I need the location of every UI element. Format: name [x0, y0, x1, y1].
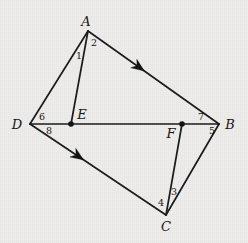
vertex-label-a: A — [81, 15, 90, 28]
vertex-label-e: E — [77, 108, 87, 121]
angle-7-label: 7 — [198, 112, 204, 122]
vertex-dot-f — [179, 121, 185, 127]
angle-6-label: 6 — [39, 112, 45, 122]
figure-canvas — [0, 0, 248, 243]
edge-ab — [88, 31, 219, 124]
angle-5-label: 5 — [209, 126, 215, 136]
vertex-label-d: D — [12, 118, 22, 131]
vertex-label-b: B — [225, 118, 235, 131]
angle-1-label: 1 — [76, 51, 82, 61]
edges-group — [30, 31, 219, 215]
angle-2-label: 2 — [91, 38, 97, 48]
arrow-ab-icon — [131, 59, 145, 71]
angle-3-label: 3 — [171, 187, 177, 197]
geometry-figure: ABCDEF 12345678 — [0, 0, 248, 243]
vertex-label-c: C — [161, 220, 171, 233]
edge-dc — [30, 124, 166, 215]
vertex-label-f: F — [166, 127, 175, 140]
angle-8-label: 8 — [46, 126, 52, 136]
arrow-dc-icon — [70, 148, 84, 160]
angle-4-label: 4 — [158, 198, 164, 208]
vertex-dot-e — [68, 121, 74, 127]
